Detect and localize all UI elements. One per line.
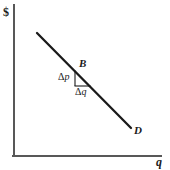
- demand-curve-line: [37, 33, 131, 128]
- delta-p-label: Δp: [58, 72, 69, 82]
- delta-variable-p: p: [64, 71, 69, 82]
- x-axis-label: q: [156, 156, 162, 168]
- delta-variable-q: q: [81, 86, 86, 97]
- y-axis-label: $: [3, 6, 9, 18]
- point-b-label: B: [79, 58, 86, 69]
- delta-q-label: Δq: [75, 87, 86, 97]
- diagram-canvas: [0, 0, 170, 170]
- demand-curve-diagram: $ q B D Δp Δq: [0, 0, 170, 170]
- demand-curve-label: D: [134, 125, 142, 136]
